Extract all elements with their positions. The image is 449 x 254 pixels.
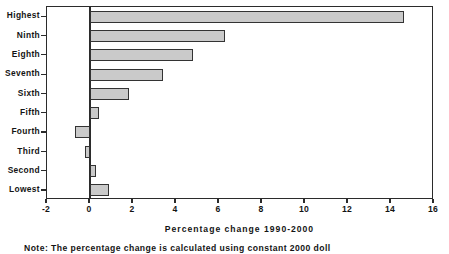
bar (90, 165, 96, 177)
bar (90, 184, 109, 196)
category-tick (41, 35, 46, 36)
category-label: Fourth (0, 127, 40, 135)
x-axis-tick-label: 12 (342, 204, 352, 214)
category-tick (41, 189, 46, 190)
x-axis-tick (174, 199, 175, 203)
x-axis-tick (260, 199, 261, 203)
bar (90, 30, 225, 42)
category-label: Sixth (0, 89, 40, 97)
x-axis-tick (45, 199, 46, 203)
x-axis-tick-label: 8 (258, 204, 263, 214)
x-axis-tick-label: 0 (86, 204, 91, 214)
x-axis-tick-label: 16 (428, 204, 438, 214)
bar-chart: HighestNinthEighthSeventhSixthFifthFourt… (0, 0, 449, 254)
x-axis-tick (88, 199, 89, 203)
x-axis-tick-label: 2 (129, 204, 134, 214)
category-label: Seventh (0, 69, 40, 77)
category-tick (41, 93, 46, 94)
category-label: Third (0, 147, 40, 155)
x-axis-tick (389, 199, 390, 203)
category-label: Ninth (0, 31, 40, 39)
bar (90, 49, 193, 61)
bar (90, 11, 404, 23)
x-axis-tick (432, 199, 433, 203)
chart-note: Note: The percentage change is calculate… (24, 243, 444, 253)
bar (90, 69, 163, 81)
category-tick (41, 112, 46, 113)
category-tick (41, 131, 46, 132)
category-label: Highest (0, 11, 40, 19)
bar (90, 107, 99, 119)
bar (75, 126, 90, 138)
category-tick (41, 170, 46, 171)
x-axis-tick (303, 199, 304, 203)
category-tick (41, 74, 46, 75)
x-axis-title: Percentage change 1990-2000 (46, 224, 433, 234)
x-axis-tick-label: 4 (172, 204, 177, 214)
plot-area (46, 6, 433, 199)
category-tick (41, 151, 46, 152)
bar (85, 146, 90, 158)
bar (90, 88, 129, 100)
category-label: Lowest (0, 185, 40, 193)
x-axis-tick (217, 199, 218, 203)
category-tick (41, 16, 46, 17)
x-axis-tick (131, 199, 132, 203)
x-axis-tick-label: 6 (215, 204, 220, 214)
category-axis-labels: HighestNinthEighthSeventhSixthFifthFourt… (0, 6, 40, 199)
category-tick (41, 54, 46, 55)
x-axis-tick-label: -2 (42, 204, 50, 214)
bar-series (47, 7, 432, 198)
category-label: Second (0, 166, 40, 174)
category-label: Fifth (0, 108, 40, 116)
x-axis-tick-label: 10 (299, 204, 309, 214)
x-axis-tick (346, 199, 347, 203)
x-axis-tick-label: 14 (385, 204, 395, 214)
category-label: Eighth (0, 50, 40, 58)
